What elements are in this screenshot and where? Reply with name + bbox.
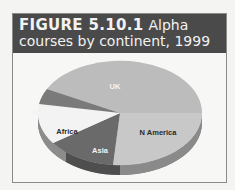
- label-uk: UK: [110, 82, 121, 91]
- label-rest-of-europe: Rest of Europe: [32, 108, 85, 117]
- label-asia: Asia: [92, 146, 109, 155]
- pie-chart: UK N America Asia Africa Rest of Europe: [0, 0, 235, 190]
- slice-n-america: [113, 113, 202, 165]
- label-africa: Africa: [56, 127, 78, 136]
- label-n-america: N America: [140, 128, 178, 137]
